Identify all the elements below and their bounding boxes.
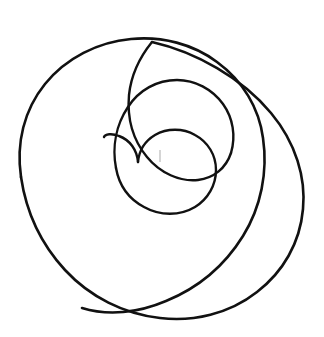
canvas-background <box>0 0 324 337</box>
spiral-drawing <box>0 0 324 337</box>
drawing-canvas: Hand-drawn spiral A hand-drawn black lin… <box>0 0 324 337</box>
